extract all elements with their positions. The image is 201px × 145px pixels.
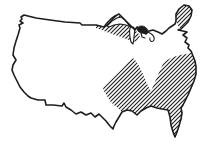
us-map-sketch-figure	[0, 0, 201, 145]
us-map-sketch-svg	[0, 0, 201, 145]
